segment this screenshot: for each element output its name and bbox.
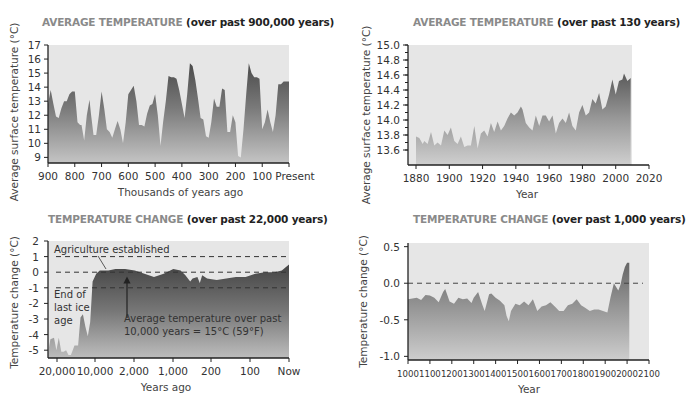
x-tick-label: 10,000 xyxy=(77,365,114,377)
x-tick-label: 1000 xyxy=(397,369,419,379)
y-tick-label: 10 xyxy=(28,137,41,149)
x-tick-label: 1700 xyxy=(550,369,572,379)
y-tick-label: 11 xyxy=(28,123,41,135)
y-tick-label: 1 xyxy=(32,251,39,263)
x-tick-label: 2000 xyxy=(602,172,629,184)
y-tick-label: 14 xyxy=(28,81,42,93)
x-tick-label: 900 xyxy=(38,170,58,182)
x-tick-label: 500 xyxy=(145,170,165,182)
x-tick-label: 1880 xyxy=(403,172,430,184)
annotation-ice-age: age xyxy=(54,315,73,326)
y-tick-label: 9 xyxy=(34,151,41,163)
x-tick-label: 1960 xyxy=(536,172,563,184)
x-tick-label: 1400 xyxy=(485,369,507,379)
y-tick-label: -0.5 xyxy=(380,314,401,326)
y-tick-label: -1 xyxy=(29,282,39,294)
x-tick-label: 200 xyxy=(225,170,245,182)
y-tick-label: 2 xyxy=(32,235,39,247)
x-axis-title: Years ago xyxy=(140,381,192,393)
x-tick-label: Now xyxy=(278,365,301,377)
y-tick-label: -1.0 xyxy=(380,350,401,362)
x-tick-label: 100 xyxy=(252,170,272,182)
x-tick-label: 800 xyxy=(65,170,85,182)
x-axis-title: Thousands of years ago xyxy=(117,186,243,198)
x-tick-label: 2,000 xyxy=(119,365,149,377)
y-axis-title: Temperature change (°C) xyxy=(8,236,20,370)
annotation-ice-age: last ice xyxy=(54,302,90,313)
x-tick-label: 400 xyxy=(172,170,192,182)
x-tick-label: 1500 xyxy=(507,369,529,379)
y-tick-label: 13.6 xyxy=(377,144,401,156)
x-tick-label: 1980 xyxy=(569,172,596,184)
y-tick-label: 0.0 xyxy=(383,277,400,289)
y-tick-label: 12 xyxy=(28,109,41,121)
y-tick-label: 0.5 xyxy=(383,241,400,253)
x-tick-label: 300 xyxy=(199,170,219,182)
x-tick-label: 20,000 xyxy=(39,365,76,377)
y-tick-label: 14.4 xyxy=(377,84,401,96)
y-tick-label: 15 xyxy=(28,67,41,79)
x-tick-label: 1100 xyxy=(419,369,441,379)
x-tick-label: 1940 xyxy=(502,172,529,184)
y-tick-label: 17 xyxy=(28,39,41,51)
x-tick-label: 1900 xyxy=(594,369,616,379)
y-tick-label: -5 xyxy=(29,344,39,356)
x-tick-label: 600 xyxy=(118,170,138,182)
y-tick-label: -4 xyxy=(29,329,40,341)
y-tick-label: 13 xyxy=(28,95,41,107)
annotation-agriculture: Agriculture established xyxy=(54,244,170,255)
x-tick-label: 1800 xyxy=(572,369,594,379)
y-tick-label: -3 xyxy=(29,313,39,325)
annotation-average: 10,000 years = 15°C (59°F) xyxy=(124,326,264,337)
x-tick-label: 1300 xyxy=(463,369,485,379)
y-tick-label: 14.0 xyxy=(377,114,400,126)
x-tick-label: 1200 xyxy=(441,369,463,379)
x-tick-label: Present xyxy=(275,170,314,182)
annotation-ice-age: End of xyxy=(54,289,86,300)
x-tick-label: 2020 xyxy=(636,172,663,184)
y-axis-title: Average surface temperature (°C) xyxy=(360,26,372,205)
x-tick-label: 200 xyxy=(201,365,221,377)
x-tick-label: 1600 xyxy=(529,369,551,379)
x-tick-label: 100 xyxy=(240,365,260,377)
x-tick-label: 1900 xyxy=(436,172,463,184)
x-tick-label: 1920 xyxy=(469,172,496,184)
x-tick-label: 1,000 xyxy=(158,365,188,377)
y-tick-label: 13.8 xyxy=(377,129,400,141)
y-tick-label: 14.8 xyxy=(377,54,400,66)
y-tick-label: 0 xyxy=(32,266,39,278)
x-axis-title: Year xyxy=(517,383,541,395)
x-tick-label: 700 xyxy=(92,170,112,182)
x-tick-label: 2000 xyxy=(616,369,638,379)
y-tick-label: 15.0 xyxy=(377,39,400,51)
y-tick-label: 14.2 xyxy=(377,99,400,111)
annotation-average: Average temperature over past xyxy=(124,313,281,324)
y-tick-label: -2 xyxy=(29,297,39,309)
y-axis-title: Temperature change (°C) xyxy=(357,235,369,369)
y-axis-title: Average surface temperature (°C) xyxy=(8,23,20,202)
x-tick-label: 2100 xyxy=(638,369,660,379)
x-axis-title: Year xyxy=(515,188,539,200)
y-tick-label: 14.6 xyxy=(377,69,401,81)
y-tick-label: 16 xyxy=(28,53,42,65)
